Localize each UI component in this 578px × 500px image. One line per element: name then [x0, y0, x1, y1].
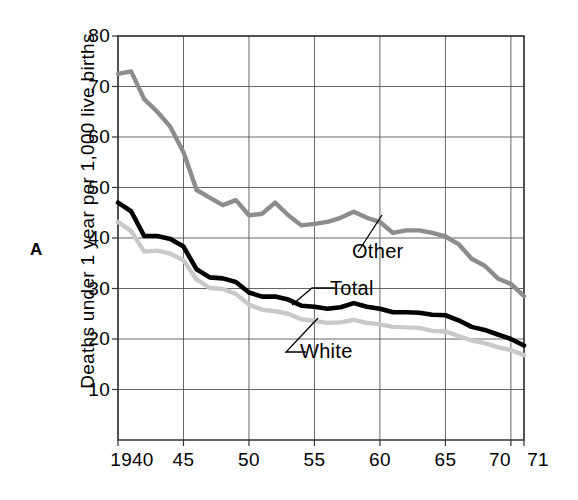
- chart-figure: A Deaths under 1 year per 1,000 live bir…: [0, 0, 578, 500]
- series-label-other: Other: [352, 240, 404, 263]
- series-label-white: White: [300, 340, 353, 363]
- data-series: [118, 71, 524, 355]
- plot-area: [0, 0, 578, 500]
- gridlines: [118, 36, 524, 440]
- series-line-other: [118, 71, 524, 296]
- series-label-total: Total: [330, 277, 374, 300]
